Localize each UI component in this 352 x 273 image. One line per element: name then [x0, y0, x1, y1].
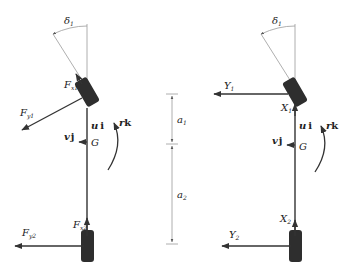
bicycle-model-diagram: δ1 Fx1 Fy1 ui vj G rk Fx2 Fy2 — [0, 0, 352, 273]
left-panel: δ1 Fx1 Fy1 ui vj G rk Fx2 Fy2 — [15, 15, 132, 262]
steer-angle-arc — [53, 26, 87, 34]
lateral-velocity-label: vj — [64, 131, 74, 142]
rear-lateral-force-label: Fy2 — [21, 227, 36, 240]
front-lateral-force-label: Fy1 — [19, 107, 34, 120]
rear-distance-label: a2 — [177, 189, 187, 201]
center-of-gravity-label: G — [91, 137, 99, 148]
yaw-rate-label: rk — [326, 120, 339, 131]
rear-longitudinal-force-label: Fx2 — [72, 219, 87, 231]
lateral-velocity-label: vj — [272, 135, 282, 146]
yaw-rate-arrow — [315, 126, 325, 172]
front-distance-label: a1 — [177, 114, 187, 126]
steer-angle-arc — [261, 26, 295, 34]
front-longitudinal-force-label: Fx1 — [63, 79, 78, 91]
rear-lateral-force-label: Y2 — [229, 229, 240, 241]
steer-angle-label: δ1 — [64, 15, 74, 27]
front-wheel — [74, 76, 100, 107]
forward-velocity-label: ui — [91, 120, 104, 131]
steer-angle-label: δ1 — [272, 15, 282, 27]
front-lateral-force-label: Y1 — [224, 80, 234, 92]
rear-longitudinal-force-label: X2 — [279, 213, 291, 225]
front-longitudinal-force-label: X1 — [280, 102, 292, 114]
forward-velocity-label: ui — [299, 120, 312, 131]
dimension-lines: a1 a2 — [166, 94, 187, 244]
center-of-gravity-label: G — [299, 141, 307, 152]
yaw-rate-label: rk — [119, 117, 132, 128]
right-panel: δ1 Y1 X1 ui vj G rk X2 Y2 — [214, 15, 339, 262]
yaw-rate-arrow — [108, 123, 118, 170]
